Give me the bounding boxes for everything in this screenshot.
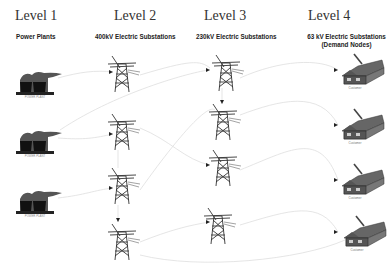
- figure-caption: [0, 258, 389, 268]
- transmission-tower-icon: [106, 168, 142, 206]
- power-plant-icon: POWER PLANT: [14, 187, 62, 217]
- svg-text:Customer: Customer: [348, 141, 361, 145]
- power-plant-icon: POWER PLANT: [14, 68, 62, 98]
- svg-text:POWER PLANT: POWER PLANT: [25, 95, 46, 99]
- svg-text:Customer: Customer: [350, 248, 363, 252]
- svg-text:POWER PLANT: POWER PLANT: [25, 214, 46, 218]
- svg-text:Customer: Customer: [348, 196, 361, 200]
- transmission-tower-icon: [207, 150, 243, 188]
- svg-text:Customer: Customer: [348, 86, 361, 90]
- transmission-tower-icon: [210, 55, 246, 93]
- transmission-tower-icon: [202, 208, 238, 246]
- customer-house-icon: Customer: [338, 107, 388, 147]
- customer-house-icon: Customer: [340, 214, 389, 254]
- svg-text:POWER PLANT: POWER PLANT: [25, 154, 46, 158]
- transmission-tower-icon: [106, 224, 142, 262]
- link-pp2-s400b: [58, 134, 113, 139]
- transmission-tower-icon: [106, 114, 142, 152]
- transmission-tower-icon: [207, 104, 243, 142]
- customer-house-icon: Customer: [338, 162, 388, 202]
- link-pp3-s400c: [58, 188, 113, 198]
- customer-house-icon: Customer: [338, 52, 388, 92]
- link-pp1-s400a: [58, 71, 113, 78]
- power-plant-icon: POWER PLANT: [14, 127, 62, 157]
- transmission-tower-icon: [106, 56, 142, 94]
